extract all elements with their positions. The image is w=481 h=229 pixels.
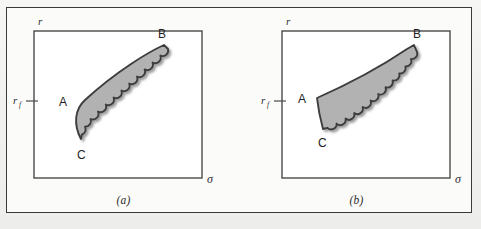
panel-a-x-axis-label: σ xyxy=(207,172,214,186)
panel-a-y-axis-label: r xyxy=(38,15,43,27)
panel-a-plot: r r f σ A B C xyxy=(7,8,240,214)
panel-b-caption: (b) xyxy=(240,194,473,206)
panel-b-risk-free-label: r xyxy=(261,94,266,106)
panel-a-vertex-label-B: B xyxy=(158,27,166,41)
panel-b-vertex-label-A: A xyxy=(298,92,306,106)
panel-b-x-axis-label: σ xyxy=(455,172,462,186)
figure-outer-frame: r r f σ A B C (a) xyxy=(6,7,472,213)
panel-a: r r f σ A B C (a) xyxy=(7,8,240,214)
panel-b-vertex-label-C: C xyxy=(318,136,327,150)
panel-a-vertex-label-A: A xyxy=(59,95,67,109)
panel-a-risk-free-label: r xyxy=(13,94,18,106)
figure-container: r r f σ A B C (a) xyxy=(0,0,481,229)
panel-b-vertex-label-B: B xyxy=(413,27,421,41)
panel-a-vertex-label-C: C xyxy=(77,148,86,162)
panel-a-caption: (a) xyxy=(7,194,240,206)
panel-a-risk-free-sublabel: f xyxy=(19,100,22,109)
panel-b-risk-free-sublabel: f xyxy=(267,100,270,109)
panel-b-y-axis-label: r xyxy=(286,15,291,27)
panel-b-plot: r r f σ A B C xyxy=(240,8,473,214)
panel-b: r r f σ A B C (b) xyxy=(240,8,473,214)
